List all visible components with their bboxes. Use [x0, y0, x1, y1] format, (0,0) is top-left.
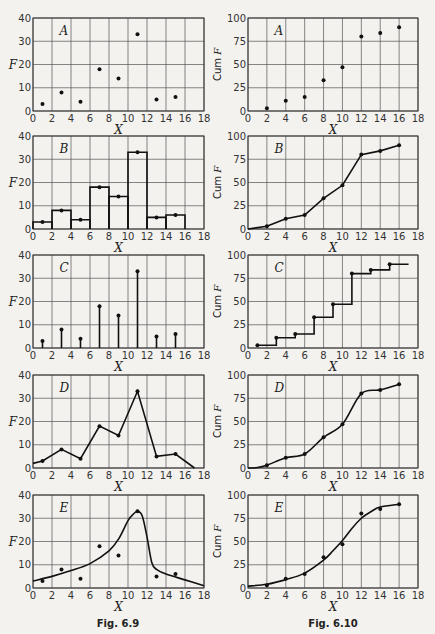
data-point — [60, 567, 64, 571]
x-tick-label: 8 — [320, 590, 326, 601]
data-point — [284, 99, 288, 103]
chart-panel-6-10C: 0255075100024681012141618XCum FC — [212, 250, 424, 375]
x-tick-label: 4 — [68, 350, 74, 361]
data-point — [359, 153, 363, 157]
y-tick-label: 40 — [18, 13, 31, 24]
x-axis-label: X — [113, 123, 123, 137]
data-point — [378, 31, 382, 35]
data-point — [284, 456, 288, 460]
y-tick-label: 10 — [18, 439, 31, 450]
data-point — [136, 509, 140, 513]
x-axis-label: X — [113, 480, 123, 494]
x-tick-label: 10 — [336, 590, 349, 601]
x-tick-label: 16 — [179, 590, 192, 601]
data-point — [60, 447, 64, 451]
data-point — [155, 574, 159, 578]
histogram-bar — [52, 210, 71, 229]
data-point — [303, 213, 307, 217]
data-point — [60, 90, 64, 94]
data-point — [98, 185, 102, 189]
x-tick-label: 6 — [87, 231, 93, 242]
y-tick-label: 25 — [233, 439, 246, 450]
x-tick-label: 8 — [106, 113, 112, 124]
data-point — [369, 268, 373, 272]
x-tick-label: 2 — [264, 113, 270, 124]
y-axis-label: Cum F — [212, 165, 223, 199]
y-axis-label: Cum F — [212, 47, 223, 81]
x-tick-label: 12 — [355, 113, 368, 124]
panel-letter: D — [273, 381, 284, 395]
x-tick-label: 12 — [355, 470, 368, 481]
y-tick-label: 50 — [233, 536, 246, 547]
data-point — [293, 332, 297, 336]
x-tick-label: 4 — [283, 113, 289, 124]
x-tick-label: 18 — [412, 470, 425, 481]
y-tick-label: 20 — [18, 177, 31, 188]
data-point — [98, 67, 102, 71]
panel-letter: B — [59, 142, 69, 156]
data-point — [136, 150, 140, 154]
x-tick-label: 18 — [412, 350, 425, 361]
y-tick-label: 10 — [18, 319, 31, 330]
data-point — [397, 143, 401, 147]
y-tick-label: 75 — [233, 273, 246, 284]
data-point — [255, 343, 259, 347]
x-tick-label: 14 — [160, 350, 173, 361]
x-tick-label: 12 — [141, 470, 154, 481]
y-tick-label: 40 — [18, 131, 31, 142]
y-tick-label: 20 — [18, 296, 31, 307]
x-tick-label: 12 — [355, 350, 368, 361]
x-tick-label: 8 — [320, 231, 326, 242]
x-tick-label: 2 — [264, 350, 270, 361]
chart-panel-6-9D: 010203040024681012141618XFD — [8, 370, 211, 495]
data-point — [388, 262, 392, 266]
data-point — [322, 78, 326, 82]
x-tick-label: 16 — [393, 113, 406, 124]
data-point — [174, 95, 178, 99]
data-series — [33, 389, 195, 468]
x-tick-label: 0 — [245, 113, 251, 124]
x-tick-label: 12 — [141, 350, 154, 361]
y-tick-label: 75 — [233, 36, 246, 47]
y-tick-label: 50 — [233, 416, 246, 427]
x-axis-label: X — [328, 360, 338, 374]
right-figure-caption: Fig. 6.10 — [308, 618, 357, 629]
x-tick-label: 4 — [68, 113, 74, 124]
data-point — [155, 97, 159, 101]
data-point — [117, 433, 121, 437]
data-point — [397, 25, 401, 29]
x-tick-label: 4 — [283, 350, 289, 361]
data-point — [359, 512, 363, 516]
data-point — [322, 435, 326, 439]
y-tick-label: 100 — [227, 370, 246, 381]
panel-letter: C — [60, 261, 69, 275]
x-axis-label: X — [113, 241, 123, 255]
x-tick-label: 0 — [245, 470, 251, 481]
data-point — [303, 572, 307, 576]
data-point — [322, 196, 326, 200]
x-tick-label: 14 — [160, 470, 173, 481]
x-tick-label: 8 — [106, 350, 112, 361]
data-point — [350, 272, 354, 276]
x-tick-label: 2 — [49, 470, 55, 481]
y-tick-label: 25 — [233, 319, 246, 330]
x-tick-label: 10 — [122, 470, 135, 481]
x-tick-label: 12 — [141, 231, 154, 242]
data-point — [303, 95, 307, 99]
data-point — [284, 217, 288, 221]
data-point — [174, 332, 178, 336]
chart-panel-6-9B: 010203040024681012141618XFB — [8, 131, 211, 256]
y-tick-label: 25 — [233, 559, 246, 570]
x-tick-label: 8 — [320, 350, 326, 361]
x-tick-label: 16 — [179, 350, 192, 361]
x-tick-label: 2 — [264, 590, 270, 601]
x-tick-label: 6 — [301, 113, 307, 124]
x-tick-label: 16 — [393, 470, 406, 481]
x-tick-label: 6 — [87, 113, 93, 124]
data-point — [378, 507, 382, 511]
figure-canvas: 010203040024681012141618XFA0102030400246… — [0, 0, 435, 634]
x-tick-label: 4 — [68, 470, 74, 481]
x-tick-label: 18 — [198, 470, 211, 481]
chart-panel-6-10A: 0255075100024681012141618XCum FA — [212, 13, 424, 138]
x-tick-label: 14 — [160, 231, 173, 242]
